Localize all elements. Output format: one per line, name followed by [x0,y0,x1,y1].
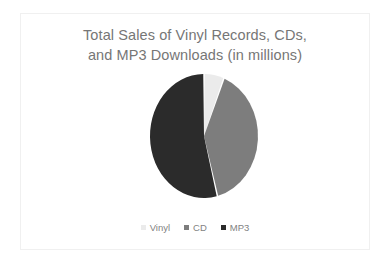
legend-item-vinyl[interactable]: Vinyl [141,222,170,233]
pie-chart-svg [147,70,261,202]
chart-legend: VinylCDMP3 [21,222,369,233]
chart-frame: Total Sales of Vinyl Records, CDs, and M… [20,13,370,250]
legend-swatch-vinyl-icon [141,225,146,230]
chart-title-line-1: Total Sales of Vinyl Records, CDs, [21,25,369,45]
legend-swatch-cd-icon [184,225,189,230]
chart-title: Total Sales of Vinyl Records, CDs, and M… [21,25,369,65]
legend-item-mp3[interactable]: MP3 [221,222,250,233]
legend-item-cd[interactable]: CD [184,222,207,233]
legend-label-cd: CD [193,222,207,233]
legend-swatch-mp3-icon [221,225,226,230]
legend-label-vinyl: Vinyl [150,222,170,233]
legend-label-mp3: MP3 [230,222,250,233]
pie-chart [147,70,261,202]
pie-slice-group [150,74,258,198]
chart-title-line-2: and MP3 Downloads (in millions) [21,45,369,65]
